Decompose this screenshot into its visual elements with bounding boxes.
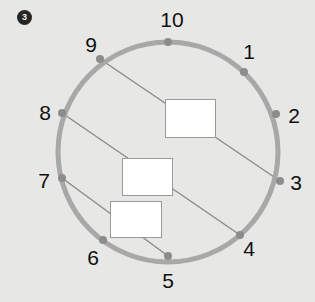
tick-label-10: 10 [160, 9, 183, 30]
circle-point-9[interactable] [96, 55, 104, 63]
tick-label-3: 3 [290, 172, 302, 193]
circle-point-6[interactable] [99, 236, 107, 244]
circle-point-5[interactable] [164, 252, 172, 260]
tick-label-2: 2 [288, 105, 300, 126]
step-badge: 3 [17, 10, 32, 25]
tick-label-7: 7 [38, 170, 50, 191]
box-middle[interactable] [122, 158, 173, 196]
circle-point-8[interactable] [58, 109, 66, 117]
box-top[interactable] [165, 99, 216, 138]
circle-point-2[interactable] [272, 110, 280, 118]
tick-label-4: 4 [243, 238, 255, 259]
circle-point-10[interactable] [164, 38, 172, 46]
circle-point-7[interactable] [58, 174, 66, 182]
tick-label-5: 5 [162, 270, 174, 291]
tick-label-9: 9 [85, 34, 97, 55]
circle-point-3[interactable] [276, 177, 284, 185]
diagram-canvas: 12345678910 3 [0, 0, 315, 302]
tick-label-6: 6 [87, 247, 99, 268]
box-bottom[interactable] [110, 201, 162, 238]
tick-label-1: 1 [243, 41, 255, 62]
circle-diagram-svg [0, 0, 315, 302]
circle-point-1[interactable] [240, 68, 248, 76]
tick-label-8: 8 [39, 102, 51, 123]
